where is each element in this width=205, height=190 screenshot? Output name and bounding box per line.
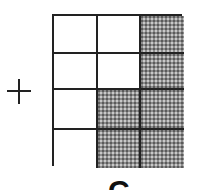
grid-cell-shaded [141, 16, 184, 54]
plus-vertical-stroke [18, 79, 20, 104]
grid-cell-shaded [141, 130, 184, 168]
grid-cell-shaded [141, 90, 184, 130]
grid-cell-empty [98, 16, 141, 54]
grid-cell-empty [98, 54, 141, 90]
grid-cell-empty [54, 130, 98, 168]
grid-cell-empty [54, 90, 98, 130]
grid-cell-empty [54, 16, 98, 54]
bottom-label: C [108, 176, 130, 190]
shaded-fraction-grid [52, 14, 182, 166]
grid-cell-shaded [141, 54, 184, 90]
grid-cell-empty [54, 54, 98, 90]
plus-icon [7, 79, 31, 104]
grid-cell-shaded [98, 90, 141, 130]
grid-cell-shaded [98, 130, 141, 168]
